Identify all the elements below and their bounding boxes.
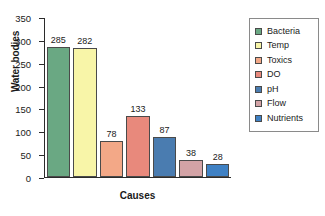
legend-item[interactable]: Nutrients bbox=[255, 111, 312, 126]
x-axis-title: Causes bbox=[44, 190, 231, 201]
legend-swatch-icon bbox=[255, 86, 262, 93]
legend-swatch-icon bbox=[255, 71, 262, 78]
bar-slot: 87 bbox=[151, 18, 178, 177]
y-axis-tick-label: 300 bbox=[15, 35, 31, 46]
bar[interactable] bbox=[206, 164, 230, 177]
bar-slot: 28 bbox=[204, 18, 231, 177]
y-axis-tick-label: 0 bbox=[26, 173, 31, 184]
y-axis-tick: 200 bbox=[39, 87, 44, 88]
bar-value-label: 87 bbox=[160, 125, 170, 135]
bar-wrapper: 282 bbox=[73, 48, 97, 177]
bar-wrapper: 28 bbox=[206, 164, 230, 177]
legend-item-label: Flow bbox=[267, 99, 286, 108]
bar[interactable] bbox=[100, 141, 124, 177]
bar-wrapper: 78 bbox=[100, 141, 124, 177]
y-axis-tick-label: 50 bbox=[20, 150, 31, 161]
y-axis-tick: 350 bbox=[39, 18, 44, 19]
legend-swatch-icon bbox=[255, 57, 262, 64]
y-axis-tick-label: 100 bbox=[15, 127, 31, 138]
bar-slot: 133 bbox=[125, 18, 152, 177]
plot-area: 050100150200250300350 28528278133873828 bbox=[44, 18, 230, 178]
bar-value-label: 38 bbox=[186, 148, 196, 158]
legend-swatch-icon bbox=[255, 115, 262, 122]
bar[interactable] bbox=[47, 47, 71, 177]
y-axis-tick-label: 350 bbox=[15, 13, 31, 24]
bar-slot: 282 bbox=[72, 18, 99, 177]
legend-swatch-icon bbox=[255, 100, 262, 107]
legend-swatch-icon bbox=[255, 28, 262, 35]
legend: BacteriaTempToxicsDOpHFlowNutrients bbox=[249, 18, 319, 132]
y-axis-tick: 0 bbox=[39, 178, 44, 179]
bar-value-label: 285 bbox=[51, 35, 66, 45]
bar[interactable] bbox=[126, 116, 150, 177]
legend-swatch-icon bbox=[255, 42, 262, 49]
legend-item[interactable]: DO bbox=[255, 68, 312, 83]
legend-item-label: Toxics bbox=[267, 56, 292, 65]
bar-value-label: 78 bbox=[106, 129, 116, 139]
legend-item[interactable]: Bacteria bbox=[255, 24, 312, 39]
bar-wrapper: 38 bbox=[179, 160, 203, 177]
x-axis-line bbox=[44, 177, 231, 178]
legend-item-label: Bacteria bbox=[267, 27, 300, 36]
bar[interactable] bbox=[73, 48, 97, 177]
bar-slot: 38 bbox=[178, 18, 205, 177]
y-axis-tick-label: 150 bbox=[15, 104, 31, 115]
bar-chart: Water bodies 050100150200250300350 28528… bbox=[0, 0, 325, 216]
y-axis-tick: 300 bbox=[39, 41, 44, 42]
legend-item-label: Temp bbox=[267, 41, 289, 50]
legend-item-label: Nutrients bbox=[267, 114, 303, 123]
y-axis-tick: 100 bbox=[39, 132, 44, 133]
bar[interactable] bbox=[153, 137, 177, 177]
bar-slot: 285 bbox=[45, 18, 72, 177]
legend-item-label: DO bbox=[267, 70, 281, 79]
bar-value-label: 28 bbox=[213, 152, 223, 162]
bar-wrapper: 87 bbox=[153, 137, 177, 177]
y-axis-tick: 50 bbox=[39, 155, 44, 156]
bar-value-label: 282 bbox=[77, 36, 92, 46]
bar-slot: 78 bbox=[98, 18, 125, 177]
bar-value-label: 133 bbox=[130, 104, 145, 114]
legend-item[interactable]: Temp bbox=[255, 39, 312, 54]
bar-wrapper: 285 bbox=[47, 47, 71, 177]
y-axis-tick: 250 bbox=[39, 64, 44, 65]
y-axis-tick: 150 bbox=[39, 109, 44, 110]
bar[interactable] bbox=[179, 160, 203, 177]
legend-item-label: pH bbox=[267, 85, 279, 94]
legend-item[interactable]: Flow bbox=[255, 97, 312, 112]
y-axis-tick-label: 200 bbox=[15, 81, 31, 92]
bar-series: 28528278133873828 bbox=[45, 18, 231, 177]
y-axis-tick-label: 250 bbox=[15, 58, 31, 69]
bar-wrapper: 133 bbox=[126, 116, 150, 177]
legend-item[interactable]: pH bbox=[255, 82, 312, 97]
legend-item[interactable]: Toxics bbox=[255, 53, 312, 68]
